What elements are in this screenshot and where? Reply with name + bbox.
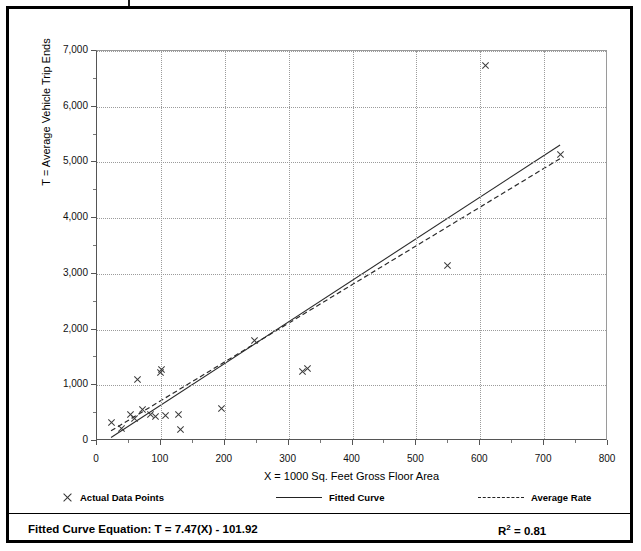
legend-label-average-rate: Average Rate (531, 492, 591, 503)
data-point-marker (443, 261, 452, 270)
data-point-marker (161, 411, 170, 420)
chart-footer: Fitted Curve Equation: T = 7.47(X) - 101… (20, 521, 620, 541)
footer-divider (9, 513, 630, 514)
x-marker-icon (62, 492, 73, 503)
average-rate-line (111, 159, 560, 431)
data-point-marker (250, 336, 259, 345)
data-point-marker (481, 61, 490, 70)
legend-item-average-rate: Average Rate (478, 492, 591, 503)
solid-line-icon (276, 497, 322, 498)
dashed-line-icon (478, 497, 524, 498)
data-point-marker (151, 412, 160, 421)
legend-item-fitted-curve: Fitted Curve (276, 492, 384, 503)
r-squared-value: R2 = 0.81 (498, 523, 546, 537)
y-axis-title: T = Average Vehicle Trip Ends (40, 2, 52, 222)
data-point-marker (130, 414, 139, 423)
data-point-marker (117, 424, 126, 433)
plot-area (96, 50, 607, 440)
legend-item-actual-data-points: Actual Data Points (62, 492, 164, 503)
legend-label-actual-data-points: Actual Data Points (80, 492, 164, 503)
data-point-marker (303, 364, 312, 373)
x-axis-title: X = 1000 Sq. Feet Gross Floor Area (96, 470, 607, 482)
fitted-curve-equation: Fitted Curve Equation: T = 7.47(X) - 101… (28, 523, 258, 535)
data-point-marker (133, 375, 142, 384)
data-point-marker (174, 410, 183, 419)
chart-legend: Actual Data Points Fitted Curve Average … (20, 492, 620, 510)
fitted-curve-line (111, 145, 560, 438)
series-lines (97, 51, 608, 441)
data-point-marker (217, 404, 226, 413)
data-point-marker (157, 365, 166, 374)
data-point-marker (107, 418, 116, 427)
data-point-marker (176, 425, 185, 434)
legend-label-fitted-curve: Fitted Curve (329, 492, 384, 503)
r-squared-number: = 0.81 (514, 525, 546, 537)
chart-figure: T = Average Vehicle Trip Ends 01,0002,00… (0, 0, 641, 551)
r-squared-exponent: 2 (506, 523, 510, 532)
data-point-marker (556, 150, 565, 159)
